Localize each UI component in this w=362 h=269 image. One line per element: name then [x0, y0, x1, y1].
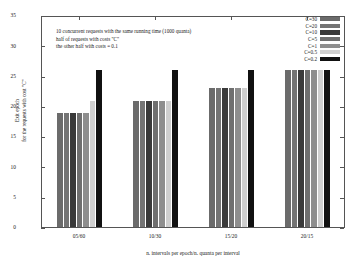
bar — [89, 101, 96, 227]
bar — [317, 70, 324, 227]
bar — [323, 70, 330, 227]
legend-swatch — [320, 57, 340, 61]
bar — [241, 88, 248, 227]
bar — [152, 101, 159, 227]
legend-label: C=20 — [305, 23, 317, 29]
y-tick-label: 35 — [0, 13, 16, 18]
bar — [158, 101, 165, 227]
annotation-line: the other half with costs = 0.1 — [56, 43, 191, 51]
x-tick-label: 10/30 — [125, 233, 185, 239]
x-axis-title: n. intervals per epoch/n. quanta per int… — [41, 250, 345, 256]
legend-swatch — [320, 17, 340, 21]
chart-figure: 05101520253035 05/6010/3015/2020/15 Exit… — [0, 0, 362, 269]
legend-item: C=20 — [304, 23, 340, 30]
bar — [139, 101, 146, 227]
legend-swatch — [320, 37, 340, 41]
bar — [310, 70, 317, 227]
y-axis-title: Exit epoch for the requests with cost "C… — [14, 46, 27, 176]
legend-label: C=5 — [308, 36, 317, 42]
y-tick-mark — [41, 228, 45, 229]
legend-item: C=30 — [304, 16, 340, 23]
legend-swatch — [320, 44, 340, 48]
y-tick-label: 5 — [0, 195, 16, 200]
legend-label: C=30 — [305, 16, 317, 22]
bar — [76, 113, 83, 227]
legend-item: C=0.5 — [304, 49, 340, 56]
x-tick-label: 20/15 — [277, 233, 337, 239]
bar — [215, 88, 222, 227]
bar — [171, 70, 178, 227]
bar-group — [208, 17, 254, 227]
y-axis-title-line1: Exit epoch — [14, 46, 21, 176]
legend-label: C=1 — [308, 43, 317, 49]
bar — [165, 101, 172, 227]
bar — [221, 88, 228, 227]
bar — [297, 70, 304, 227]
x-tick-label: 15/20 — [201, 233, 261, 239]
bar — [95, 70, 102, 227]
annotation-line: half of requests with costs "C" — [56, 36, 191, 44]
bar — [291, 70, 298, 227]
bar — [69, 113, 76, 227]
annotation-line: 10 concurrent requests with the same run… — [56, 28, 191, 36]
legend-item: C=10 — [304, 29, 340, 36]
chart-legend: C=30C=20C=10C=5C=1C=0.5C=0.2 — [304, 16, 340, 62]
bar — [234, 88, 241, 227]
legend-item: C=1 — [304, 42, 340, 49]
bar — [82, 113, 89, 227]
legend-swatch — [320, 30, 340, 34]
bar — [63, 113, 70, 227]
bar — [247, 70, 254, 227]
bar — [304, 70, 311, 227]
y-axis-title-line2: for the requests with cost "C" — [21, 46, 28, 176]
bar — [228, 88, 235, 227]
legend-item: C=5 — [304, 36, 340, 43]
y-tick-mark — [340, 228, 344, 229]
legend-swatch — [320, 24, 340, 28]
legend-label: C=0.5 — [304, 49, 317, 55]
legend-label: C=10 — [305, 29, 317, 35]
legend-item: C=0.2 — [304, 56, 340, 63]
legend-label: C=0.2 — [304, 56, 317, 62]
x-tick-label: 05/60 — [49, 233, 109, 239]
chart-annotation: 10 concurrent requests with the same run… — [56, 28, 191, 51]
y-tick-label: 0 — [0, 225, 16, 230]
legend-swatch — [320, 50, 340, 54]
bar — [145, 101, 152, 227]
